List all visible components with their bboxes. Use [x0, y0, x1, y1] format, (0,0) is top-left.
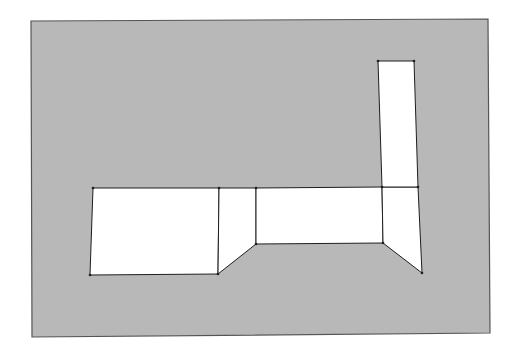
- vertex-dot: [218, 187, 221, 190]
- vertex-dot: [89, 274, 92, 277]
- vertex-dot: [255, 243, 258, 246]
- vertex-dot: [217, 273, 220, 276]
- vertex-dot: [381, 186, 384, 189]
- vertex-dot: [413, 60, 416, 63]
- vertex-dot: [377, 60, 380, 63]
- vertex-dot: [92, 187, 95, 190]
- vertex-dot: [255, 187, 258, 190]
- panel-middle-block: [256, 187, 383, 244]
- vertex-dot: [421, 272, 424, 275]
- vertex-dot: [382, 242, 385, 245]
- diagram-canvas: [0, 0, 513, 349]
- panel-left-block: [90, 188, 219, 275]
- vertex-dot: [417, 186, 420, 189]
- panel-tall-block: [378, 61, 418, 187]
- background-panel: [31, 19, 490, 337]
